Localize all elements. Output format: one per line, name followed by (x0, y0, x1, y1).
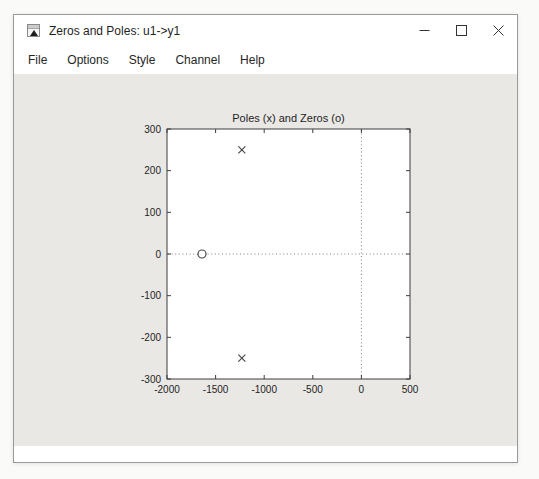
menu-help[interactable]: Help (230, 49, 275, 71)
svg-text:Poles (x) and Zeros (o): Poles (x) and Zeros (o) (232, 112, 344, 124)
title-bar: Zeros and Poles: u1->y1 (14, 15, 517, 46)
svg-text:200: 200 (144, 165, 161, 176)
svg-text:-1500: -1500 (203, 384, 229, 395)
menu-style[interactable]: Style (119, 49, 166, 71)
figure-area: Poles (x) and Zeros (o)-2000-1500-1000-5… (14, 74, 517, 446)
app-icon-peak-shape (30, 30, 38, 36)
svg-text:-1000: -1000 (251, 384, 277, 395)
svg-text:0: 0 (359, 384, 365, 395)
window-controls (406, 15, 517, 46)
maximize-button[interactable] (443, 15, 480, 46)
app-window: Zeros and Poles: u1->y1 File Option (13, 14, 518, 463)
menu-options[interactable]: Options (57, 49, 118, 71)
app-icon-titlebar (28, 25, 39, 29)
svg-text:-100: -100 (141, 290, 161, 301)
minimize-icon (419, 25, 430, 36)
svg-text:-200: -200 (141, 332, 161, 343)
svg-text:-500: -500 (303, 384, 323, 395)
svg-text:300: 300 (144, 124, 161, 135)
close-icon (493, 25, 504, 36)
menu-file[interactable]: File (18, 49, 57, 71)
svg-text:0: 0 (155, 249, 161, 260)
close-button[interactable] (480, 15, 517, 46)
app-icon (27, 24, 40, 37)
menu-channel[interactable]: Channel (165, 49, 230, 71)
svg-text:500: 500 (402, 384, 419, 395)
maximize-icon (456, 25, 467, 36)
svg-text:-2000: -2000 (154, 384, 180, 395)
pole-zero-plot: Poles (x) and Zeros (o)-2000-1500-1000-5… (14, 74, 519, 446)
menu-bar: File Options Style Channel Help (14, 46, 517, 74)
minimize-button[interactable] (406, 15, 443, 46)
svg-text:100: 100 (144, 207, 161, 218)
window-title: Zeros and Poles: u1->y1 (49, 24, 180, 38)
svg-text:-300: -300 (141, 374, 161, 385)
figure-bottom-strip (14, 446, 517, 462)
